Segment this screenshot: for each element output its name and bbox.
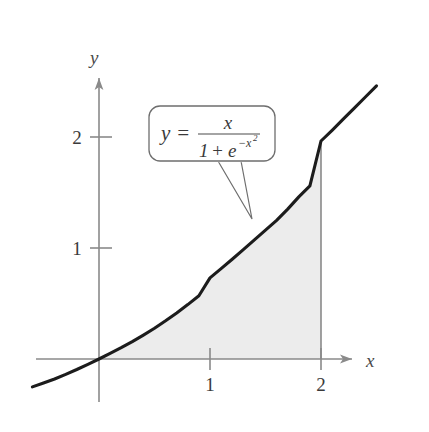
formula-numerator: x [223, 112, 233, 133]
y-axis-label: y [88, 47, 99, 68]
formula-denominator-plus: + [211, 140, 224, 161]
formula-exponent-base: x [245, 136, 252, 150]
formula-exponent-sign: − [238, 136, 246, 150]
formula-equals: = [176, 121, 190, 145]
y-tick-label-2: 2 [72, 127, 82, 148]
x-axis-label: x [365, 350, 375, 371]
x-tick-label-2: 2 [316, 374, 326, 395]
formula-exponent-power: 2 [253, 133, 258, 143]
figure-background [0, 0, 429, 432]
formula-denominator-e: e [228, 140, 236, 161]
y-tick-label-1: 1 [72, 238, 82, 259]
x-tick-label-1: 1 [205, 374, 215, 395]
function-graph-figure: y = x 1 + e − x 2 y x 2 1 1 2 [0, 0, 429, 432]
formula-denominator-one: 1 [199, 140, 209, 161]
formula-lhs: y [159, 121, 171, 145]
